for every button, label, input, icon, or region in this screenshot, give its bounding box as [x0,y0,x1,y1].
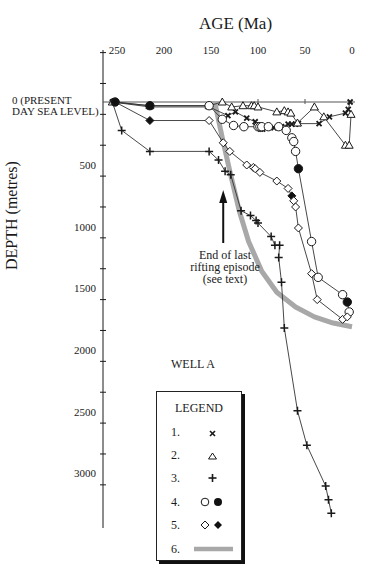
filled-diamond-marker-icon [214,521,222,529]
open-circle-marker-icon [307,237,315,245]
open-diamond-marker-icon [273,177,281,185]
triangle-marker-icon [310,103,318,110]
open-circle-marker-icon [282,126,290,134]
legend-title: LEGEND [157,401,241,416]
plus-marker-icon [325,496,333,504]
well-label: WELL A [171,357,215,372]
triangle-marker-icon [239,102,247,109]
x-marker-icon [210,431,215,436]
x-marker-icon [244,116,249,121]
plus-marker-icon [322,482,330,490]
legend-symbols [157,428,241,568]
open-circle-marker-icon [338,290,346,298]
arrow-head-icon [219,190,227,203]
open-diamond-marker-icon [313,296,321,304]
filled-circle-marker-icon [294,164,302,172]
plus-marker-icon [209,474,217,482]
rifting-annotation: End of last rifting episode (see text) [180,249,270,285]
open-circle-marker-icon [205,102,213,110]
open-circle-marker-icon [229,121,237,129]
plus-marker-icon [278,278,286,286]
annotation-line3: (see text) [180,273,270,285]
triangle-marker-icon [209,453,217,459]
filled-circle-marker-icon [146,102,154,110]
filled-circle-marker-icon [343,298,351,306]
legend: LEGEND 1. 2. 3. 4. 5. 6. [156,391,242,561]
plus-marker-icon [276,241,284,249]
open-circle-marker-icon [264,123,272,131]
open-circle-marker-icon [240,123,248,131]
plus-marker-icon [303,441,311,449]
open-circle-marker-icon [201,498,209,506]
filled-diamond-marker-icon [146,117,154,125]
open-circle-marker-icon [291,147,299,155]
open-diamond-marker-icon [294,224,302,232]
plus-marker-icon [293,407,301,415]
plus-marker-icon [327,509,335,517]
filled-circle-marker-icon [214,498,222,506]
plus-marker-icon [280,324,288,332]
series-5-line [115,102,347,319]
open-diamond-marker-icon [201,521,209,529]
open-circle-marker-icon [218,115,226,123]
plus-marker-icon [275,254,283,262]
open-circle-marker-icon [290,137,298,145]
plus-marker-icon [146,147,154,155]
series-6-curve [215,102,352,327]
plus-marker-icon [118,126,126,134]
open-diamond-marker-icon [284,184,292,192]
open-diamond-marker-icon [205,117,213,125]
